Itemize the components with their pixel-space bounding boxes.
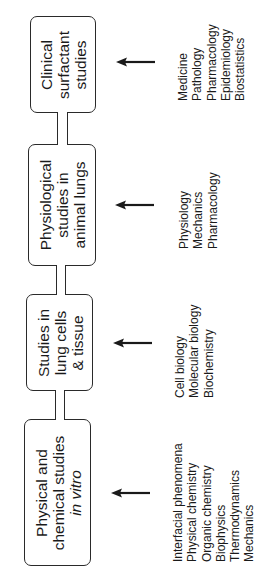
surfactant-research-diagram: Clinical surfactant studies Physiologica… [0,0,274,582]
stage-box-cells: Studies in lung cells & tissue [26,294,93,391]
stage-box-physical: Physical and chemical studies in vitro [24,419,91,566]
stage-label-line: studies in [54,160,71,250]
discipline-item: Molecular biology [187,305,201,398]
discipline-item: Physiology [177,172,191,249]
discipline-item: Mechanics [191,172,205,249]
discipline-list-clinical: Medicine Pathology Pharmacology Epidemio… [176,24,247,101]
connector-cells-physical [55,390,65,420]
discipline-item: Medicine [176,24,190,101]
discipline-item: Biostatistics [233,24,247,101]
stage-label-line: Studies in [34,308,51,376]
stage-box-physiological: Physiological studies in animal lungs [28,144,96,266]
discipline-item: Pharmacology [205,24,219,101]
stage-label-line: Physical and [32,435,49,550]
stage-label-line: Physiological [37,160,54,250]
arrow-left-icon [113,338,153,348]
discipline-item: Pathology [190,24,204,101]
connector-clinical-physiological [57,112,68,145]
discipline-item: Biophysics [214,443,228,562]
arrow-left-icon [111,488,151,498]
stage-label-line: animal lungs [71,160,88,250]
connector-physiological-cells [56,265,66,295]
stage-box-clinical: Clinical surfactant studies [30,16,96,113]
stage-label-line: chemical studies [49,435,66,550]
discipline-item: Organic chemistry [200,443,214,562]
discipline-item: Epidemiology [219,24,233,101]
stage-label-line: studies [72,30,89,98]
discipline-item: Thermodynamics [228,443,242,562]
discipline-item: Interfacial phenomena [171,443,185,562]
discipline-list-physiological: Physiology Mechanics Pharmacology [177,172,220,249]
discipline-item: Biochemistry [202,305,216,398]
stage-label-line: & tissue [68,308,85,376]
stage-label-line: Clinical [38,30,55,98]
stage-label-line: surfactant [55,30,72,98]
discipline-list-physical: Interfacial phenomena Physical chemistry… [171,443,257,562]
stage-label-line-italic: in vitro [66,435,83,550]
stage-label-physiological: Physiological studies in animal lungs [37,160,88,250]
stage-label-line: lung cells [51,308,68,376]
discipline-item: Physical chemistry [185,443,199,562]
stage-label-clinical: Clinical surfactant studies [38,30,89,98]
stage-label-physical: Physical and chemical studies in vitro [32,435,83,550]
discipline-item: Mechanics [242,443,256,562]
arrow-left-icon [115,200,155,210]
discipline-list-cells: Cell biology Molecular biology Biochemis… [173,305,216,398]
discipline-item: Pharmacology [206,172,220,249]
discipline-item: Cell biology [173,305,187,398]
stage-label-cells: Studies in lung cells & tissue [34,308,85,376]
arrow-left-icon [116,57,156,67]
